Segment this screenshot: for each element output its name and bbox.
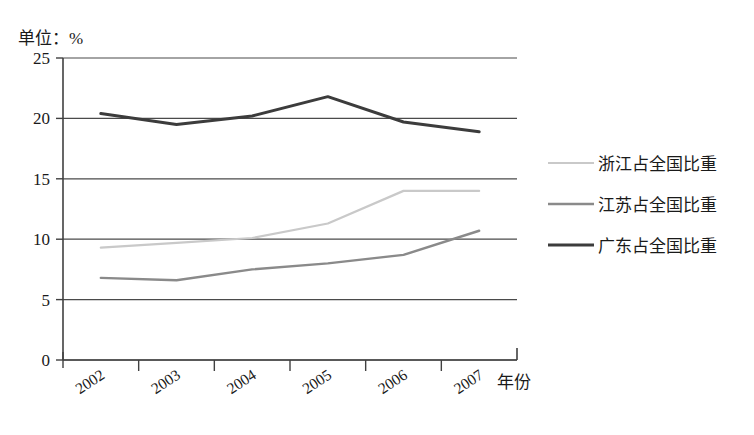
y-tick-label: 0 xyxy=(42,351,51,370)
series-line-3 xyxy=(101,97,479,132)
y-tick-label: 25 xyxy=(33,49,50,68)
chart-container: 单位：% 0510152025 200220032004200520062007… xyxy=(0,0,754,435)
legend-label-3: 广东占全国比重 xyxy=(598,237,717,256)
x-tick-label: 2004 xyxy=(224,366,259,397)
y-tick-label: 15 xyxy=(33,170,50,189)
chart-unit-label: 单位：% xyxy=(18,29,83,48)
line-chart: 单位：% 0510152025 200220032004200520062007… xyxy=(0,0,754,435)
legend-label-1: 浙江占全国比重 xyxy=(598,155,717,174)
x-tick-label: 2005 xyxy=(299,366,334,397)
data-series-group xyxy=(101,97,479,281)
x-tick-label: 2006 xyxy=(375,366,410,397)
x-axis-label: 年份 xyxy=(497,373,531,392)
y-tick-label: 20 xyxy=(33,109,50,128)
x-tick-label: 2002 xyxy=(72,366,107,397)
x-axis: 200220032004200520062007 xyxy=(63,352,486,397)
chart-legend: 浙江占全国比重江苏占全国比重广东占全国比重 xyxy=(548,155,717,256)
x-tick-label: 2003 xyxy=(148,366,183,397)
y-tick-label: 5 xyxy=(42,291,51,310)
legend-label-2: 江苏占全国比重 xyxy=(598,196,717,215)
x-tick-label: 2007 xyxy=(451,366,486,397)
y-tick-label: 10 xyxy=(33,230,50,249)
y-axis: 0510152025 xyxy=(33,49,517,370)
series-line-2 xyxy=(101,231,479,281)
